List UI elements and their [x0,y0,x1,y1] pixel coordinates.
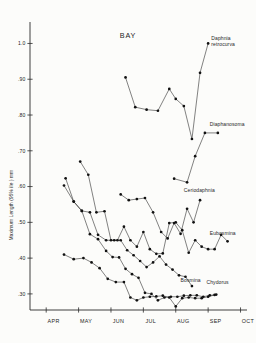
series-ceriodaphnia [119,193,201,240]
data-point [152,211,155,214]
series-bosmina [64,177,193,287]
data-point [199,71,202,74]
data-point [168,222,171,225]
y-tick-label: .70 [18,148,25,154]
data-point [168,88,171,91]
series-polyline [126,43,209,139]
data-point [105,239,108,242]
data-point [155,252,158,255]
data-point [194,239,197,242]
series-polyline [215,235,221,249]
data-point [200,245,203,248]
data-point [150,293,153,296]
data-point [168,296,171,299]
data-point [191,138,194,141]
data-point [186,181,189,184]
data-point [145,108,148,111]
chart-figure: 1.0.90.80.70.60.50.40.30 APRMAYJUNJULAUG… [0,0,256,343]
y-tick-label: .90 [18,76,25,82]
data-point [103,210,106,213]
y-tick-label: .30 [18,291,25,297]
data-point [123,225,126,228]
data-point [166,237,169,240]
data-point [90,261,93,264]
data-point [98,267,101,270]
data-point [191,285,194,288]
data-point [226,240,229,243]
data-point [161,294,164,297]
data-point [114,281,117,284]
data-point [207,248,210,251]
series-polyline [64,186,216,301]
x-axis-tick-labels: APRMAYJUNJULAUGSEPOCT [48,318,255,324]
data-point [106,278,109,281]
y-tick-label: .40 [18,255,25,261]
data-point [129,296,132,299]
data-point [187,296,190,299]
data-point [127,199,130,202]
series-polyline [174,133,218,182]
data-point [160,231,163,234]
data-point [72,258,75,261]
data-point [113,239,116,242]
x-tick-label: AUG [177,318,190,324]
data-point [207,42,210,45]
series-daphnia-retrocurva [124,42,209,140]
x-tick-label: JUN [113,318,125,324]
data-point [126,249,129,252]
data-point [144,291,147,294]
data-point [158,255,161,258]
data-point [194,155,197,158]
data-point [174,98,177,101]
data-point [111,256,114,259]
data-point [105,250,108,253]
chart-canvas: 1.0.90.80.70.60.50.40.30 APRMAYJUNJULAUG… [0,0,256,343]
data-point [64,177,67,180]
data-point [189,294,192,297]
series-chydorus [63,184,218,308]
data-point [142,296,145,299]
data-point [82,257,85,260]
data-point [148,295,151,298]
series-eubosmina [79,160,229,255]
data-point [181,297,184,300]
data-point [152,261,155,264]
data-point [131,273,134,276]
data-point [136,198,139,201]
series-label-ceriodaphnia: Ceriodaphnia [184,187,215,193]
data-point [63,253,66,256]
series-diaphanosoma [173,132,219,184]
data-point [195,294,198,297]
y-tick-label: .60 [18,183,25,189]
data-point [132,254,135,257]
data-point [119,239,122,242]
data-point [207,295,210,298]
data-point [179,232,182,235]
data-point [89,233,92,236]
y-tick-label: .80 [18,112,25,118]
series-labels-group: DaphniaretrocurvaDiaphanosomaCeriodaphni… [181,35,245,285]
y-axis-tick-labels: 1.0.90.80.70.60.50.40.30 [18,40,25,296]
data-point [187,251,190,254]
data-point [217,132,220,135]
data-point [142,231,145,234]
data-point [213,248,216,251]
y-tick-label: .50 [18,219,25,225]
data-point [174,305,177,308]
data-point [72,200,75,203]
data-point [192,221,195,224]
data-point [80,210,83,213]
data-point [136,245,139,248]
series-label-chydorus: Chydorus [207,279,230,285]
data-point [79,160,82,163]
data-point [134,106,137,109]
data-point [181,229,184,232]
data-point [171,268,174,271]
data-point [129,239,132,242]
chart-title: BAY [120,31,137,40]
data-point [213,294,216,297]
x-tick-label: OCT [242,318,255,324]
data-point [155,295,158,298]
data-point [124,268,127,271]
data-point [182,105,185,108]
